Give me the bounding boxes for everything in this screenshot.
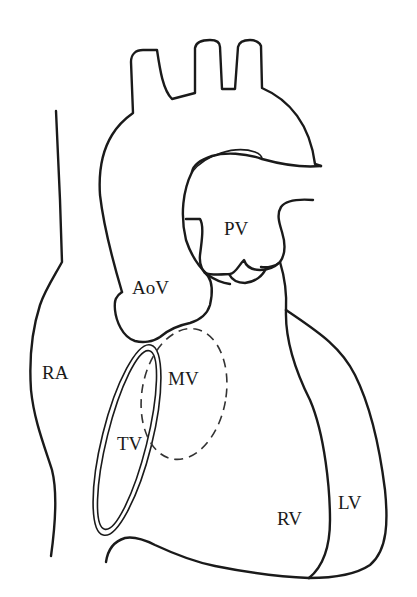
label-tv: TV bbox=[117, 434, 142, 453]
right-atrium-wall bbox=[30, 111, 62, 556]
label-lv: LV bbox=[338, 493, 362, 512]
pulmonary-trunk-left bbox=[183, 172, 230, 284]
left-ventricle-border bbox=[286, 310, 386, 578]
label-ra: RA bbox=[42, 363, 68, 382]
right-ventricle-bottom bbox=[106, 537, 309, 578]
aortic-arch-outline bbox=[100, 40, 321, 292]
interventricular-groove bbox=[286, 310, 330, 578]
right-ventricle-outflow-border bbox=[280, 262, 286, 310]
label-aov: AoV bbox=[132, 278, 169, 297]
label-rv: RV bbox=[277, 509, 302, 528]
label-mv: MV bbox=[168, 369, 199, 388]
label-pv: PV bbox=[224, 219, 248, 238]
pulmonary-trunk-right bbox=[261, 200, 313, 268]
